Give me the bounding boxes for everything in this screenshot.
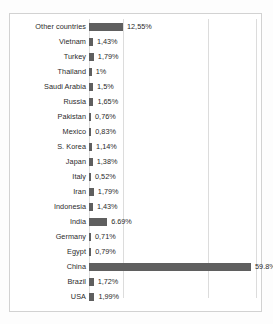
bar: [89, 38, 93, 46]
bar: [89, 83, 93, 91]
bar-row: Indonesia1,43%: [89, 199, 263, 214]
bar-row: Thailand1%: [89, 64, 263, 79]
value-label: 1,79%: [98, 184, 119, 199]
bar-row: Vietnam1,43%: [89, 34, 263, 49]
category-label: India: [70, 214, 86, 229]
bar-row: Italy0,52%: [89, 169, 263, 184]
bar: [89, 128, 91, 136]
category-label: Thailand: [58, 64, 86, 79]
category-label: Mexico: [63, 124, 86, 139]
value-label: 1,99%: [98, 289, 119, 304]
category-label: China: [67, 259, 86, 274]
category-label: Germany: [56, 229, 86, 244]
bar: [89, 263, 251, 271]
value-label: 0,76%: [95, 109, 116, 124]
category-label: Turkey: [64, 49, 86, 64]
bar-row: Japan1,38%: [89, 154, 263, 169]
bar: [89, 158, 93, 166]
value-label: 0,52%: [95, 169, 116, 184]
bar-row: Mexico0,83%: [89, 124, 263, 139]
value-label: 1,38%: [97, 154, 118, 169]
category-label: Italy: [72, 169, 86, 184]
bar-row: Egypt0,79%: [89, 244, 263, 259]
category-label: Iran: [73, 184, 86, 199]
value-label: 1,72%: [98, 274, 119, 289]
value-label: 0,71%: [95, 229, 116, 244]
value-label: 1,43%: [97, 199, 118, 214]
value-label: 6.69%: [111, 214, 132, 229]
value-label: 0,83%: [95, 124, 116, 139]
bar: [89, 143, 92, 151]
bar-row: Turkey1,79%: [89, 49, 263, 64]
value-label: 1,5%: [97, 79, 114, 94]
bar-row: Brazil1,72%: [89, 274, 263, 289]
value-label: 0,79%: [95, 244, 116, 259]
bar: [89, 278, 94, 286]
bar: [89, 173, 91, 181]
bar: [89, 248, 91, 256]
category-label: S. Korea: [57, 139, 86, 154]
bar: [89, 188, 94, 196]
bar-row: Saudi Arabia1,5%: [89, 79, 263, 94]
category-label: Pakistan: [58, 109, 86, 124]
bar-row: Germany0,71%: [89, 229, 263, 244]
category-label: Brazil: [67, 274, 86, 289]
bar: [89, 98, 93, 106]
value-label: 59.8%: [255, 259, 273, 274]
bar: [89, 233, 91, 241]
bar: [89, 68, 92, 76]
bar-row: Pakistan0,76%: [89, 109, 263, 124]
value-label: 1,43%: [97, 34, 118, 49]
bar-rows: Other countries12,55%Vietnam1,43%Turkey1…: [89, 19, 263, 304]
category-label: Russia: [63, 94, 86, 109]
bar: [89, 203, 93, 211]
bar-row: China59.8%: [89, 259, 263, 274]
value-label: 1,14%: [96, 139, 117, 154]
bar: [89, 23, 123, 31]
chart-page: Other countries12,55%Vietnam1,43%Turkey1…: [0, 0, 273, 324]
bar-row: Iran1,79%: [89, 184, 263, 199]
category-label: Other countries: [35, 19, 86, 34]
category-label: Japan: [66, 154, 86, 169]
bar-row: India6.69%: [89, 214, 263, 229]
value-label: 1,79%: [98, 49, 119, 64]
value-label: 1%: [96, 64, 107, 79]
chart-frame: Other countries12,55%Vietnam1,43%Turkey1…: [9, 13, 262, 312]
bar: [89, 113, 91, 121]
bar: [89, 293, 94, 301]
value-label: 1,65%: [97, 94, 118, 109]
category-label: Vietnam: [59, 34, 86, 49]
bar-row: Russia1,65%: [89, 94, 263, 109]
value-label: 12,55%: [127, 19, 152, 34]
category-label: Indonesia: [54, 199, 86, 214]
bar-row: USA1,99%: [89, 289, 263, 304]
category-label: USA: [71, 289, 86, 304]
bar-row: Other countries12,55%: [89, 19, 263, 34]
category-label: Saudi Arabia: [44, 79, 86, 94]
category-label: Egypt: [67, 244, 86, 259]
bar: [89, 218, 107, 226]
bar: [89, 53, 94, 61]
plot-area: Other countries12,55%Vietnam1,43%Turkey1…: [89, 19, 263, 307]
bar-row: S. Korea1,14%: [89, 139, 263, 154]
